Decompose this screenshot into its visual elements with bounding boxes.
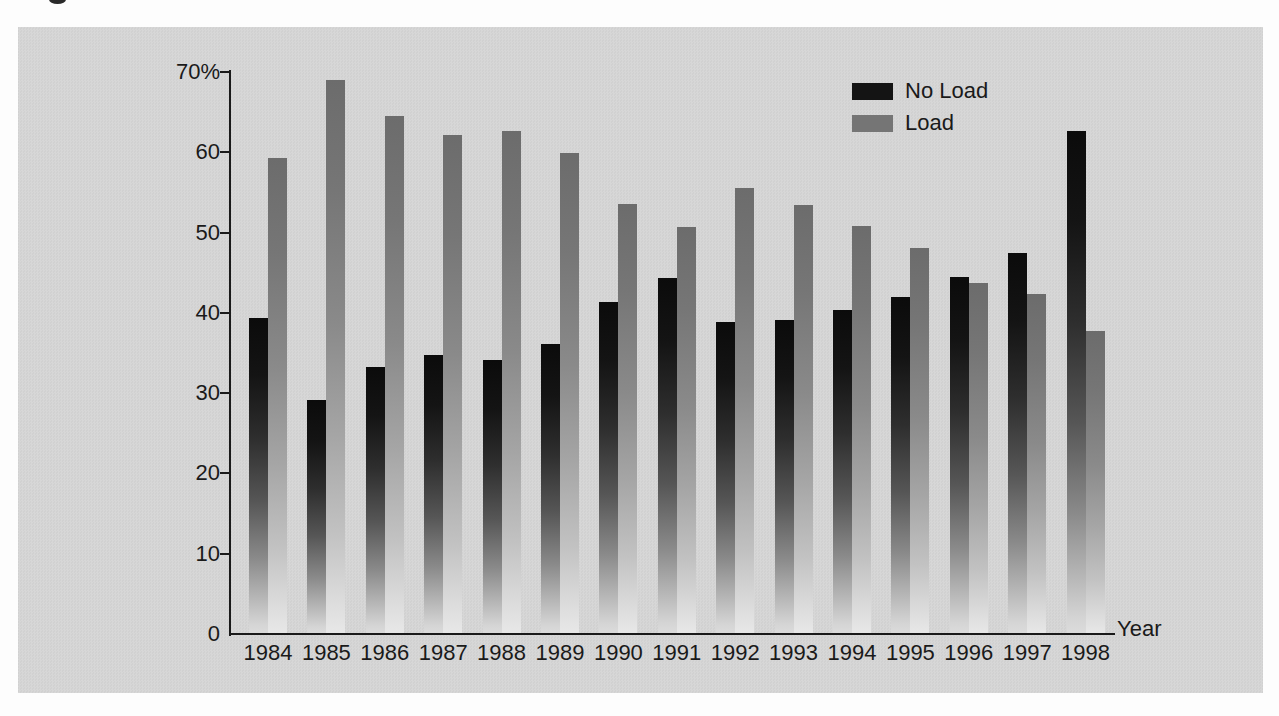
y-tick-40 bbox=[220, 312, 229, 314]
y-tick-label-20: 20 bbox=[148, 461, 220, 485]
y-tick-label-10: 10 bbox=[148, 542, 220, 566]
x-tick-label-1998: 1998 bbox=[1056, 641, 1116, 665]
cropped-figure-label-fragment bbox=[49, 0, 66, 4]
x-tick-label-1987: 1987 bbox=[413, 641, 473, 665]
bar-load-1993 bbox=[794, 205, 813, 634]
bar-no-load-1992 bbox=[716, 322, 735, 634]
bar-no-load-1995 bbox=[891, 297, 910, 634]
bar-no-load-1987 bbox=[424, 355, 443, 634]
bar-load-1994 bbox=[852, 226, 871, 634]
x-tick-label-1994: 1994 bbox=[822, 641, 882, 665]
y-tick-label-40: 40 bbox=[148, 301, 220, 325]
x-tick-label-1991: 1991 bbox=[647, 641, 707, 665]
y-tick-10 bbox=[220, 553, 229, 555]
bar-no-load-1986 bbox=[366, 367, 385, 634]
bar-load-1991 bbox=[677, 227, 696, 634]
bar-no-load-1994 bbox=[833, 310, 852, 634]
bar-load-1984 bbox=[268, 158, 287, 634]
bar-load-1988 bbox=[502, 131, 521, 634]
bar-no-load-1996 bbox=[950, 277, 969, 634]
bar-no-load-1990 bbox=[599, 302, 618, 634]
y-tick-label-60: 60 bbox=[148, 140, 220, 164]
bar-load-1986 bbox=[385, 116, 404, 634]
legend-item-no-load: No Load bbox=[852, 75, 988, 107]
bar-no-load-1997 bbox=[1008, 253, 1027, 634]
bar-load-1990 bbox=[618, 204, 637, 634]
bar-load-1989 bbox=[560, 153, 579, 634]
y-tick-20 bbox=[220, 472, 229, 474]
bar-load-1987 bbox=[443, 135, 462, 634]
x-tick-label-1996: 1996 bbox=[939, 641, 999, 665]
y-tick-60 bbox=[220, 151, 229, 153]
bar-no-load-1991 bbox=[658, 278, 677, 634]
x-tick-label-1986: 1986 bbox=[355, 641, 415, 665]
bar-load-1997 bbox=[1027, 294, 1046, 634]
y-axis-line bbox=[229, 70, 231, 636]
bar-no-load-1993 bbox=[775, 320, 794, 634]
load-swatch-icon bbox=[852, 115, 893, 132]
bar-load-1985 bbox=[326, 80, 345, 634]
bar-no-load-1984 bbox=[249, 318, 268, 634]
x-tick-label-1989: 1989 bbox=[530, 641, 590, 665]
x-tick-label-1990: 1990 bbox=[588, 641, 648, 665]
x-tick-label-1984: 1984 bbox=[238, 641, 298, 665]
y-tick-label-30: 30 bbox=[148, 381, 220, 405]
legend-item-load: Load bbox=[852, 107, 988, 139]
x-axis-line bbox=[229, 633, 1115, 635]
y-tick-label-0: 0 bbox=[148, 622, 220, 646]
x-axis-title: Year bbox=[1117, 617, 1161, 641]
bar-load-1995 bbox=[910, 248, 929, 634]
bar-no-load-1988 bbox=[483, 360, 502, 634]
legend-label-load: Load bbox=[905, 111, 954, 135]
bar-no-load-1998 bbox=[1067, 131, 1086, 634]
bar-load-1992 bbox=[735, 188, 754, 634]
bar-no-load-1989 bbox=[541, 344, 560, 634]
bar-load-1996 bbox=[969, 283, 988, 634]
bar-load-1998 bbox=[1086, 331, 1105, 634]
x-tick-label-1997: 1997 bbox=[997, 641, 1057, 665]
scanned-figure-page: 010203040506070% 19841985198619871988198… bbox=[0, 0, 1279, 716]
x-tick-label-1988: 1988 bbox=[472, 641, 532, 665]
y-tick-label-50: 50 bbox=[148, 221, 220, 245]
x-tick-label-1992: 1992 bbox=[705, 641, 765, 665]
y-tick-70 bbox=[220, 71, 229, 73]
legend: No Load Load bbox=[852, 75, 988, 139]
legend-label-no-load: No Load bbox=[905, 79, 988, 103]
bar-no-load-1985 bbox=[307, 400, 326, 634]
no-load-swatch-icon bbox=[852, 83, 893, 100]
x-tick-label-1995: 1995 bbox=[880, 641, 940, 665]
x-tick-label-1993: 1993 bbox=[764, 641, 824, 665]
y-tick-label-70: 70% bbox=[148, 60, 220, 84]
x-tick-label-1985: 1985 bbox=[296, 641, 356, 665]
y-tick-50 bbox=[220, 232, 229, 234]
chart-panel: 010203040506070% 19841985198619871988198… bbox=[18, 27, 1263, 693]
y-tick-30 bbox=[220, 392, 229, 394]
